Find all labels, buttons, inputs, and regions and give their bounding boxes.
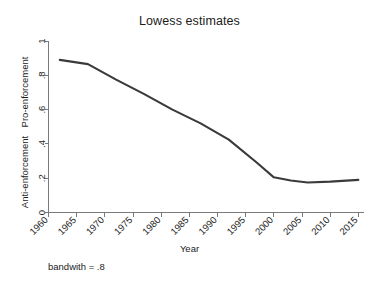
y-tick-label: .8 xyxy=(36,71,47,79)
y-axis-label-group: Pro-enforcement Anti-enforcement xyxy=(19,56,30,208)
x-tick-label: 1970 xyxy=(84,214,107,237)
chart-figure: Lowess estimates 0.2.4.6.81 196019651970… xyxy=(0,0,379,293)
y-tick-label: .4 xyxy=(36,140,47,148)
x-tick-label: 1960 xyxy=(27,214,50,237)
x-tick-label: 2010 xyxy=(309,214,332,237)
x-tick-label: 1990 xyxy=(196,214,219,237)
x-tick-label: 1985 xyxy=(168,214,191,237)
x-tick-label: 1965 xyxy=(55,214,78,237)
y-tick-label: .6 xyxy=(36,106,47,114)
y-tick-label: .2 xyxy=(36,174,47,182)
x-tick-label: 2005 xyxy=(281,214,304,237)
y-tick-group: 0.2.4.6.81 xyxy=(36,38,49,215)
x-tick-label: 1995 xyxy=(224,214,247,237)
y-axis-label-lower: Anti-enforcement xyxy=(19,135,30,208)
y-axis: 0.2.4.6.81 xyxy=(36,38,49,215)
y-tick-label: 1 xyxy=(36,38,47,43)
x-axis: 1960196519701975198019851990199520002005… xyxy=(27,213,364,237)
lowess-line xyxy=(60,60,359,183)
x-tick-label: 1975 xyxy=(112,214,135,237)
x-tick-label: 2000 xyxy=(253,214,276,237)
x-tick-label: 1980 xyxy=(140,214,163,237)
x-tick-group: 1960196519701975198019851990199520002005… xyxy=(27,213,360,237)
x-axis-title: Year xyxy=(0,243,379,254)
y-axis-label-upper: Pro-enforcement xyxy=(19,56,30,127)
bandwidth-note: bandwith = .8 xyxy=(48,261,105,272)
x-tick-label: 2015 xyxy=(337,214,360,237)
